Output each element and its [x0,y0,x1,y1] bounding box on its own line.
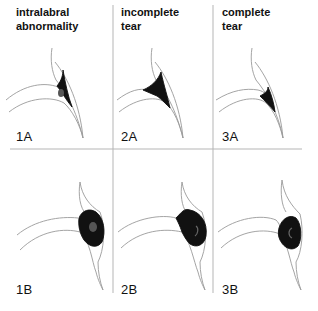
panel-1B-drawing [17,182,104,290]
panel-label-3B: 3B [222,282,238,297]
panel-label-3A: 3A [222,129,238,144]
column-title-line: abnormality [16,19,78,33]
column-title-line: incomplete [121,5,179,19]
panel-3A-drawing [216,48,283,138]
column-title-line: complete [222,5,270,19]
panel-label-2B: 2B [121,282,137,297]
panel-1A-drawing [6,48,83,138]
panel-label-1A: 1A [16,129,32,144]
column-title-line: intralabral [16,5,78,19]
column-title-incomplete-tear: incomplete tear [121,5,179,33]
column-title-intralabral-abnormality: intralabral abnormality [16,5,78,33]
figure-artwork [0,0,318,311]
panel-2A-drawing [117,48,183,138]
labral-tear-classification-figure: intralabral abnormality incomplete tear … [0,0,318,311]
panel-label-2A: 2A [121,129,137,144]
panel-3B-drawing [218,180,302,290]
panel-2B-drawing [118,182,206,290]
column-title-line: tear [121,19,179,33]
grid-dividers [10,5,302,293]
column-title-complete-tear: complete tear [222,5,270,33]
column-title-line: tear [222,19,270,33]
panel-label-1B: 1B [16,282,32,297]
